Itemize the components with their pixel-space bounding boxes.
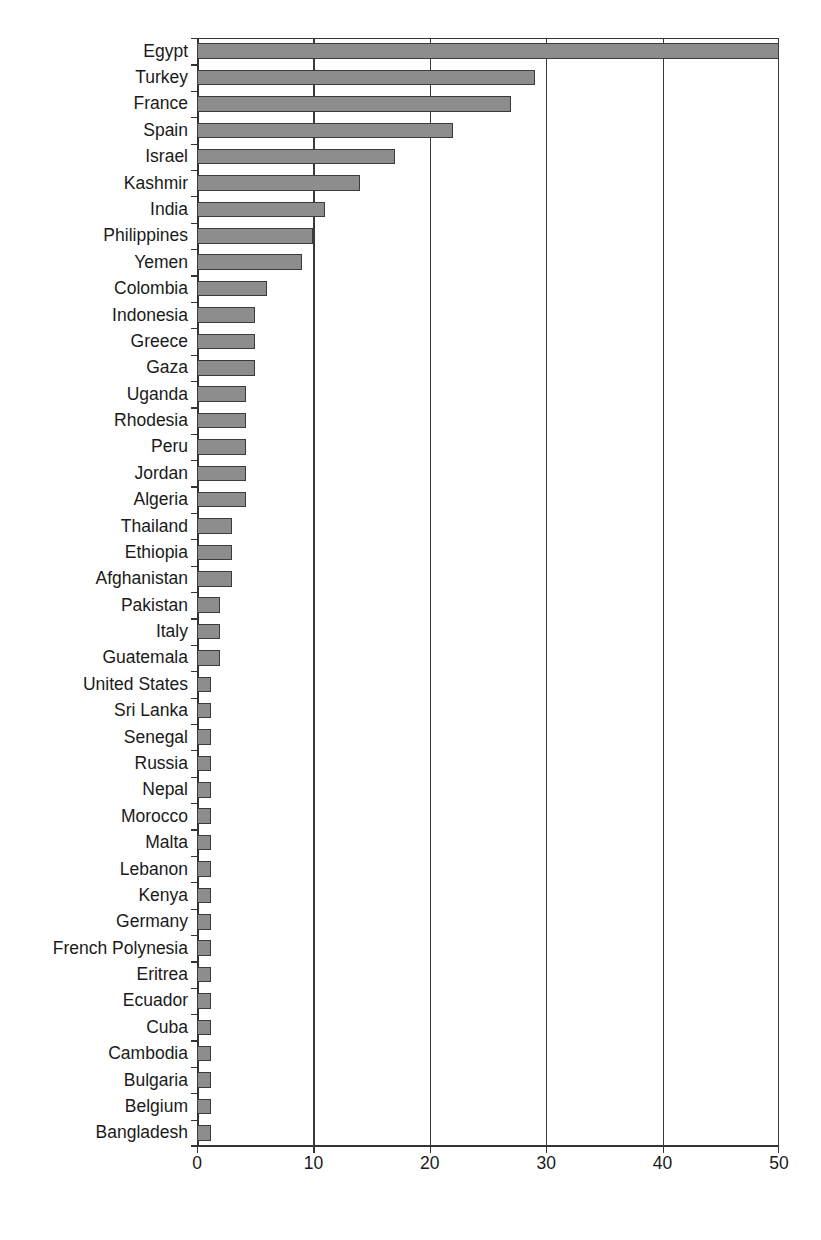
bar xyxy=(197,518,232,534)
bar xyxy=(197,334,255,350)
gridline xyxy=(430,38,431,1146)
y-axis-tick-label: Senegal xyxy=(124,729,188,747)
y-axis-tick-label: Morocco xyxy=(121,808,188,826)
y-tick-mark xyxy=(191,961,197,962)
y-tick-mark xyxy=(191,302,197,303)
y-axis-tick-label: Algeria xyxy=(134,491,188,509)
bar xyxy=(197,413,246,429)
gridline xyxy=(778,38,779,1146)
y-axis-tick-label: Afghanistan xyxy=(96,570,188,588)
y-tick-mark xyxy=(191,856,197,857)
bar xyxy=(197,228,313,244)
y-axis-tick-label: Malta xyxy=(145,834,188,852)
bar xyxy=(197,1020,211,1036)
x-axis-tick-label: 10 xyxy=(304,1155,323,1173)
y-tick-mark xyxy=(191,223,197,224)
y-tick-mark xyxy=(191,645,197,646)
bar xyxy=(197,466,246,482)
y-axis-tick-label: Eritrea xyxy=(136,966,188,984)
y-axis-tick-label: Germany xyxy=(116,913,188,931)
y-axis-tick-label: Pakistan xyxy=(121,597,188,615)
y-axis-tick-label: Yemen xyxy=(134,254,188,272)
y-axis-tick-label: France xyxy=(134,95,188,113)
y-tick-mark xyxy=(191,1040,197,1041)
y-axis-tick-label: Philippines xyxy=(103,227,188,245)
bar xyxy=(197,492,246,508)
bar xyxy=(197,254,302,270)
bar xyxy=(197,123,453,139)
y-tick-mark xyxy=(191,1120,197,1121)
y-axis-tick-label: Belgium xyxy=(125,1098,188,1116)
y-tick-mark xyxy=(191,434,197,435)
bar xyxy=(197,940,211,956)
bar xyxy=(197,703,211,719)
y-tick-mark xyxy=(191,38,197,39)
x-axis-labels: 01020304050 xyxy=(197,1147,779,1187)
y-axis-tick-label: Gaza xyxy=(146,359,188,377)
y-tick-mark xyxy=(191,671,197,672)
bar xyxy=(197,1046,211,1062)
y-axis-tick-label: Nepal xyxy=(142,781,188,799)
bar xyxy=(197,281,267,297)
bar xyxy=(197,70,535,86)
bar xyxy=(197,967,211,983)
bar xyxy=(197,650,220,666)
y-axis-tick-label: Uganda xyxy=(127,386,188,404)
bar xyxy=(197,888,211,904)
bar xyxy=(197,202,325,218)
y-axis-tick-label: French Polynesia xyxy=(53,940,188,958)
bar xyxy=(197,808,211,824)
bar xyxy=(197,782,211,798)
y-tick-mark xyxy=(191,777,197,778)
y-tick-mark xyxy=(191,592,197,593)
y-axis-tick-label: Rhodesia xyxy=(114,412,188,430)
x-axis-tick-label: 20 xyxy=(420,1155,439,1173)
scan-bottom-margin xyxy=(0,1214,821,1240)
x-axis-tick-label: 40 xyxy=(653,1155,672,1173)
bar xyxy=(197,756,211,772)
y-tick-mark xyxy=(191,91,197,92)
y-axis-tick-label: Sri Lanka xyxy=(114,702,188,720)
bar xyxy=(197,729,211,745)
gridline xyxy=(546,38,547,1146)
y-tick-mark xyxy=(191,460,197,461)
bar xyxy=(197,1072,211,1088)
bar xyxy=(197,149,395,165)
y-tick-mark xyxy=(191,618,197,619)
x-axis-tick-label: 30 xyxy=(536,1155,555,1173)
y-tick-mark xyxy=(191,64,197,65)
plot-top-border xyxy=(197,38,779,39)
bar xyxy=(197,914,211,930)
y-tick-mark xyxy=(191,1067,197,1068)
bar xyxy=(197,1125,211,1141)
bar xyxy=(197,624,220,640)
x-axis-tick-label: 0 xyxy=(192,1155,202,1173)
y-tick-mark xyxy=(191,407,197,408)
y-tick-mark xyxy=(191,196,197,197)
y-tick-mark xyxy=(191,988,197,989)
bar xyxy=(197,861,211,877)
y-axis-tick-label: United States xyxy=(83,676,188,694)
bar xyxy=(197,1099,211,1115)
y-tick-mark xyxy=(191,566,197,567)
bar-chart: EgyptTurkeyFranceSpainIsraelKashmirIndia… xyxy=(0,0,821,1240)
bar xyxy=(197,677,211,693)
y-tick-mark xyxy=(191,486,197,487)
y-axis-tick-label: Jordan xyxy=(134,465,188,483)
y-axis-tick-label: Cambodia xyxy=(108,1045,188,1063)
y-axis-tick-label: Lebanon xyxy=(120,861,188,879)
y-tick-mark xyxy=(191,355,197,356)
y-axis-tick-label: Thailand xyxy=(121,518,188,536)
bar xyxy=(197,360,255,376)
y-tick-mark xyxy=(191,539,197,540)
y-tick-mark xyxy=(191,249,197,250)
bar xyxy=(197,96,511,112)
bar xyxy=(197,993,211,1009)
y-tick-mark xyxy=(191,882,197,883)
y-tick-mark xyxy=(191,829,197,830)
bar xyxy=(197,43,779,59)
y-tick-mark xyxy=(191,1093,197,1094)
y-axis-tick-label: Guatemala xyxy=(102,649,188,667)
y-axis-tick-label: Kenya xyxy=(138,887,188,905)
y-tick-mark xyxy=(191,381,197,382)
